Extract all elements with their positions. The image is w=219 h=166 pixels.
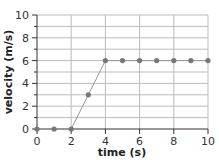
y-tick-label: 2 [22,100,29,113]
y-tick-label: 6 [22,55,29,68]
grid [37,15,208,129]
data-point [34,126,39,131]
data-point [86,92,91,97]
y-tick-label: 0 [22,123,29,136]
data-point [137,58,142,63]
y-axis-label: velocity (m/s) [2,30,15,115]
x-tick-label: 8 [170,135,177,148]
x-axis-label: time (s) [98,146,146,159]
data-point [103,58,108,63]
data-point [154,58,159,63]
x-tick-label: 0 [34,135,41,148]
y-tick-label: 8 [22,32,29,45]
data-point [205,58,210,63]
data-point [52,126,57,131]
data-point [188,58,193,63]
y-tick-label: 4 [22,77,29,90]
y-tick-label: 10 [15,9,29,22]
data-point [171,58,176,63]
velocity-time-chart: 02468100246810 time (s) velocity (m/s) [0,0,219,166]
x-tick-label: 10 [201,135,215,148]
x-tick-label: 2 [68,135,75,148]
data-point [120,58,125,63]
axes [32,15,208,134]
tick-labels: 02468100246810 [15,9,215,148]
data-point [69,126,74,131]
